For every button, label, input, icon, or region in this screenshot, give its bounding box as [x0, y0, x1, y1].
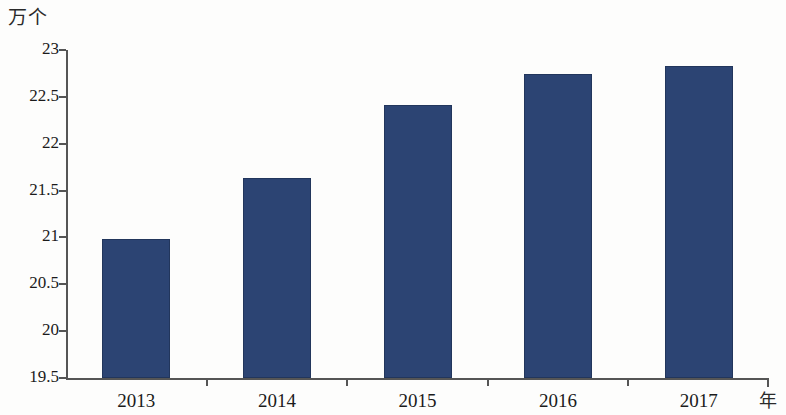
- x-axis-tick-mark: [487, 378, 489, 386]
- y-axis-tick-mark: [59, 236, 66, 238]
- x-axis-tick-mark: [627, 378, 629, 386]
- x-axis-unit-label: 年: [759, 390, 777, 412]
- y-axis-tick-mark: [59, 49, 66, 51]
- x-axis-tick-mark: [346, 378, 348, 386]
- y-axis-tick-mark: [59, 143, 66, 145]
- x-axis-line: [66, 378, 769, 380]
- y-axis-tick-label: 22: [42, 133, 59, 153]
- y-axis-tick-mark: [59, 330, 66, 332]
- y-axis-tick-label: 19.5: [29, 367, 59, 387]
- y-axis-tick-label: 20: [42, 320, 59, 340]
- bar: [665, 66, 733, 378]
- y-axis-unit-label: 万个: [8, 8, 48, 28]
- bar: [524, 74, 592, 378]
- bar-chart-figure: 万个 19.52020.52121.52222.523 201320142015…: [0, 0, 786, 415]
- y-axis-tick-label: 20.5: [29, 273, 59, 293]
- x-axis-category-label: 2013: [66, 390, 207, 412]
- x-axis-category-label: 2017: [628, 390, 769, 412]
- y-axis-tick-label: 21.5: [29, 180, 59, 200]
- x-axis-category-label: 2016: [488, 390, 629, 412]
- y-axis-tick-label: 21: [42, 226, 59, 246]
- y-axis-tick-mark: [59, 377, 66, 379]
- y-axis-tick-mark: [59, 96, 66, 98]
- x-axis-end-tick: [767, 378, 769, 387]
- bar: [102, 239, 170, 378]
- bar: [243, 178, 311, 378]
- y-axis-line: [66, 50, 68, 378]
- y-axis-tick-mark: [59, 190, 66, 192]
- y-axis-tick-label: 23: [42, 39, 59, 59]
- y-axis-tick-label: 22.5: [29, 86, 59, 106]
- bar: [384, 105, 452, 378]
- x-axis-tick-mark: [206, 378, 208, 386]
- x-axis-category-label: 2014: [207, 390, 348, 412]
- plot-area: 19.52020.52121.52222.523 201320142015201…: [66, 50, 769, 378]
- y-axis-tick-mark: [59, 283, 66, 285]
- x-axis-category-label: 2015: [347, 390, 488, 412]
